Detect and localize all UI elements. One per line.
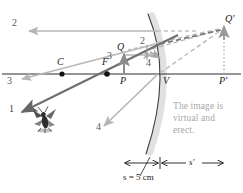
label-object-distance-text: s = 5 cm [123,172,154,182]
note-line-2: virtual and [173,113,215,125]
label-ray-2-right: 2 [140,36,145,46]
note-line-3: erect. [173,125,194,137]
label-point-V: V [163,76,169,86]
optics-ray-diagram-figure: C F P V P' Q Q' 1 2 2 3 3 4 4 The image … [0,0,243,193]
label-ray-1: 1 [9,104,14,114]
label-point-P-prime: P' [219,76,227,86]
label-ray-3-left: 3 [7,76,12,86]
label-point-P: P [120,76,126,86]
ray-4-virtual-extension [160,31,220,73]
label-ray-2-left: 2 [12,18,17,28]
label-ray-4-right: 4 [146,58,151,68]
diagram-canvas [0,0,243,193]
label-object-Q: Q [117,42,124,52]
fly-icon [33,107,56,134]
label-ray-3-right: 3 [107,51,112,61]
note-line-1: The image is [173,101,223,113]
ray-4-reflected [104,74,158,126]
label-object-distance: s = 5 cm [123,172,154,182]
label-point-C: C [57,57,64,67]
point-C-dot [59,71,64,76]
label-image-distance: s' [189,157,194,167]
mirror-glow [150,16,164,152]
label-ray-4-left: 4 [96,122,101,132]
point-F-dot [104,71,110,77]
label-image-Q-prime: Q' [225,14,234,24]
